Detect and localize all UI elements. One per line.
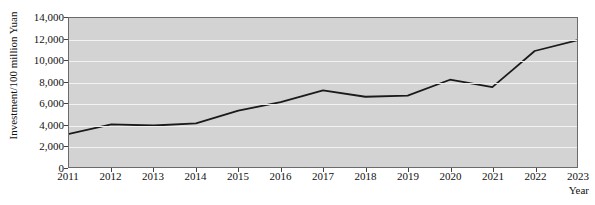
gridline — [69, 40, 577, 41]
x-axis-tick-mark — [408, 168, 409, 172]
x-axis-tick-mark — [196, 168, 197, 172]
y-axis-tick-label: 14,000 — [34, 11, 64, 23]
x-axis-tick-mark — [366, 168, 367, 172]
y-axis-tick-mark — [64, 39, 68, 40]
gridline — [69, 104, 577, 105]
x-axis-tick-mark — [493, 168, 494, 172]
x-axis-tick-mark — [281, 168, 282, 172]
y-axis-tick-mark — [64, 82, 68, 83]
y-axis-tick-mark — [64, 168, 68, 169]
y-axis-tick-mark — [64, 17, 68, 18]
gridline — [69, 126, 577, 127]
x-axis-tick-mark — [536, 168, 537, 172]
x-axis-tick-mark — [153, 168, 154, 172]
plot-area — [68, 17, 578, 168]
y-axis-tick-label: 10,000 — [34, 54, 64, 66]
line-chart: Investment/100 million Yuan 02,0004,0006… — [0, 0, 595, 205]
y-axis-tick-label: 12,000 — [34, 33, 64, 45]
gridline — [69, 83, 577, 84]
gridline — [69, 61, 577, 62]
y-axis-tick-mark — [64, 103, 68, 104]
x-axis-tick-label: 2011 — [57, 170, 79, 182]
y-axis-tick-mark — [64, 60, 68, 61]
x-axis-tick-mark — [323, 168, 324, 172]
y-axis-tick-label: 4,000 — [39, 119, 64, 131]
x-axis-tick-mark — [238, 168, 239, 172]
y-axis-tick-mark — [64, 146, 68, 147]
gridline — [69, 147, 577, 148]
x-axis-tick-mark — [451, 168, 452, 172]
y-axis-tick-label: 6,000 — [39, 97, 64, 109]
y-axis-tick-label: 8,000 — [39, 76, 64, 88]
x-axis-tick-mark — [111, 168, 112, 172]
y-axis-tick-mark — [64, 125, 68, 126]
x-axis-title: Year — [569, 184, 589, 196]
x-axis-tick-label: 2023 — [567, 170, 589, 182]
y-axis-tick-label: 2,000 — [39, 140, 64, 152]
